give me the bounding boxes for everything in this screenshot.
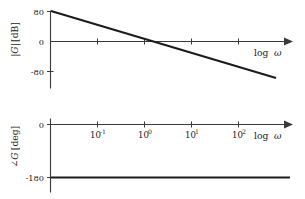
phase-x-tick-label-3: 10 1 bbox=[185, 128, 199, 141]
bode-plot-figure: 80 0 -80 |G| [dB] log ω bbox=[0, 0, 305, 199]
magnitude-y-axis-title-math: |G| bbox=[9, 43, 21, 57]
magnitude-plot-group: 80 0 -80 |G| [dB] log ω bbox=[9, 7, 293, 89]
magnitude-y-axis-title: |G| [dB] bbox=[9, 22, 21, 57]
phase-y-axis-title-unit: [deg] bbox=[9, 126, 20, 150]
phase-x-tick-label-1: 10 -1 bbox=[90, 128, 106, 141]
bode-plot-svg: 80 0 -80 |G| [dB] log ω bbox=[0, 0, 305, 199]
magnitude-x-axis-title-log: log bbox=[254, 47, 268, 58]
phase-x-tick-label-4: 10 2 bbox=[232, 128, 246, 141]
phase-x-tick-label-4-exp: 2 bbox=[242, 128, 246, 135]
phase-x-axis-title-log: log bbox=[254, 130, 268, 141]
phase-x-tick-label-2-exp: 0 bbox=[148, 128, 152, 135]
phase-x-axis-arrow-icon bbox=[284, 121, 293, 129]
phase-x-axis-title-omega: ω bbox=[274, 130, 282, 141]
magnitude-x-axis-title-omega: ω bbox=[274, 47, 282, 58]
magnitude-y-axis-title-unit: [dB] bbox=[9, 22, 20, 42]
phase-y-axis-title: ∠G [deg] bbox=[9, 126, 20, 168]
phase-y-axis-title-math: ∠G bbox=[9, 152, 20, 167]
magnitude-x-axis-arrow-icon bbox=[284, 38, 293, 46]
phase-plot-group: 0 -180 ∠G [deg] 10 -1 10 0 10 1 10 bbox=[9, 119, 293, 193]
phase-x-tick-label-1-exp: -1 bbox=[100, 128, 106, 135]
phase-x-tick-label-2: 10 0 bbox=[138, 128, 152, 141]
phase-y-tick-label-minus180: -180 bbox=[26, 173, 44, 183]
phase-y-tick-label-0: 0 bbox=[39, 120, 44, 130]
magnitude-y-tick-label-0: 0 bbox=[39, 37, 44, 47]
magnitude-y-tick-label-minus80: -80 bbox=[31, 67, 44, 77]
magnitude-data-line bbox=[51, 11, 276, 78]
phase-x-tick-label-3-exp: 1 bbox=[195, 128, 199, 135]
magnitude-y-tick-label-80: 80 bbox=[34, 7, 44, 17]
